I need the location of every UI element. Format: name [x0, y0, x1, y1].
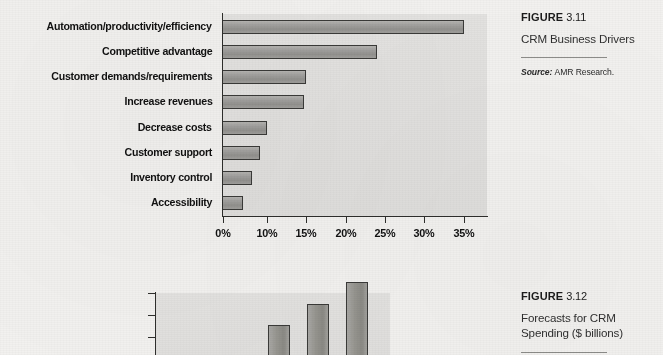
bar [223, 121, 267, 135]
figure-title: CRM Business Drivers [521, 31, 655, 46]
figure-number: 3.12 [566, 290, 587, 302]
category-axis-labels: Automation/productivity/efficiency Compe… [6, 14, 218, 216]
x-axis-tick [306, 217, 307, 223]
bar [223, 171, 252, 185]
x-axis-tick [424, 217, 425, 223]
y-axis-line [155, 292, 156, 355]
figure-label: FIGURE [521, 290, 563, 302]
x-axis-label: 30% [413, 227, 434, 239]
bar [223, 20, 464, 34]
y-axis-tick [148, 293, 155, 294]
bar [223, 95, 304, 109]
category-label: Automation/productivity/efficiency [47, 21, 212, 33]
x-axis-label: 10% [256, 227, 277, 239]
x-axis-label: 20% [335, 227, 356, 239]
bar [346, 282, 368, 355]
x-axis-label: 0% [215, 227, 230, 239]
bar-row [223, 65, 487, 90]
source-label: Source: [521, 67, 552, 77]
source-text: AMR Research. [555, 67, 614, 77]
category-label-row: Competitive advantage [6, 39, 218, 64]
x-axis-tick [267, 217, 268, 223]
bar-row [223, 140, 487, 165]
bar [223, 45, 377, 59]
category-label-row: Inventory control [6, 166, 218, 191]
category-label: Customer demands/requirements [51, 71, 212, 83]
category-label-row: Increase revenues [6, 90, 218, 115]
bar [223, 70, 306, 84]
y-axis-tick [148, 337, 155, 338]
category-label: Customer support [124, 147, 212, 159]
y-axis-line [222, 13, 223, 217]
x-axis-tick [346, 217, 347, 223]
category-label-row: Customer support [6, 140, 218, 165]
figure-label: FIGURE [521, 11, 563, 23]
x-axis-label: 35% [453, 227, 474, 239]
plot-area [223, 14, 487, 216]
bar [307, 304, 329, 355]
category-label: Competitive advantage [102, 46, 212, 58]
category-label-row: Automation/productivity/efficiency [6, 14, 218, 39]
figure-3-11-chart: Automation/productivity/efficiency Compe… [0, 0, 500, 262]
bar-row [223, 14, 487, 39]
category-label: Increase revenues [124, 96, 212, 108]
x-axis-tick [464, 217, 465, 223]
bar-row [223, 166, 487, 191]
x-axis-label: 25% [374, 227, 395, 239]
category-label: Inventory control [130, 172, 212, 184]
bar [223, 196, 243, 210]
category-label-row: Customer demands/requirements [6, 65, 218, 90]
bar [268, 325, 290, 355]
figure-3-11-caption: FIGURE 3.11 CRM Business Drivers Source:… [521, 12, 655, 77]
figure-3-12-caption: FIGURE 3.12 Forecasts for CRM Spending (… [521, 291, 655, 355]
caption-divider [521, 57, 607, 58]
bar-row [223, 191, 487, 216]
x-axis-label: 15% [295, 227, 316, 239]
bar-row [223, 39, 487, 64]
bar-row [223, 115, 487, 140]
category-label: Accessibility [151, 197, 212, 209]
category-label: Decrease costs [138, 122, 212, 134]
figure-number-line: FIGURE 3.12 [521, 291, 655, 303]
x-axis-line [222, 216, 488, 217]
bar-row [223, 90, 487, 115]
x-axis-tick [385, 217, 386, 223]
figure-source: Source: AMR Research. [521, 67, 655, 77]
bar-series [223, 14, 487, 216]
figure-number: 3.11 [566, 11, 586, 23]
category-label-row: Accessibility [6, 191, 218, 216]
caption-divider [521, 352, 607, 353]
figure-title-line1: Forecasts for CRM [521, 310, 655, 325]
bar [223, 146, 260, 160]
figure-3-12-chart: $20 18 16 [0, 282, 500, 355]
figure-title-line2: Spending ($ billions) [521, 325, 655, 340]
figure-number-line: FIGURE 3.11 [521, 12, 655, 24]
y-axis-tick [148, 315, 155, 316]
x-axis-tick [223, 217, 224, 223]
plot-area [156, 293, 390, 355]
category-label-row: Decrease costs [6, 115, 218, 140]
